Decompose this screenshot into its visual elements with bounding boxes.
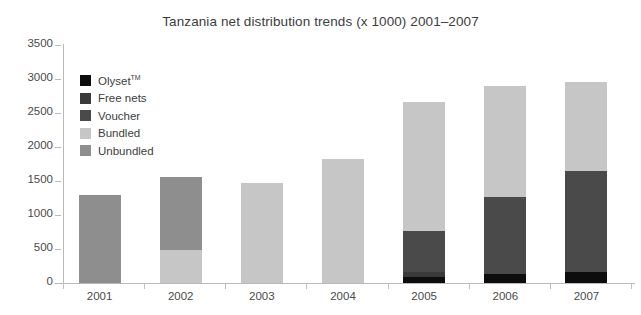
bar-segment <box>403 277 445 283</box>
y-axis-tick <box>55 283 61 284</box>
y-axis-tick-label: 500 <box>5 241 53 253</box>
y-axis-tick <box>55 45 61 46</box>
bar-segment <box>484 197 526 274</box>
bar-segment <box>565 272 607 283</box>
x-axis-tick-label: 2002 <box>146 290 216 302</box>
legend-swatch-icon <box>80 128 91 139</box>
bar-segment <box>322 159 364 283</box>
y-axis-tick-label: 3500 <box>5 37 53 49</box>
legend-swatch-icon <box>80 93 91 104</box>
legend-item-voucher[interactable]: Voucher <box>80 107 154 125</box>
bar-segment <box>79 195 121 283</box>
x-axis-tick-label: 2005 <box>389 290 459 302</box>
bar-2001[interactable] <box>79 195 121 283</box>
x-axis-tick-label: 2001 <box>65 290 135 302</box>
y-axis-tick-label: 1000 <box>5 207 53 219</box>
x-axis-tick <box>469 283 470 289</box>
x-axis-tick <box>631 283 632 289</box>
x-axis-tick-label: 2003 <box>227 290 297 302</box>
bar-2005[interactable] <box>403 102 445 283</box>
y-axis-tick <box>55 249 61 250</box>
chart-title: Tanzania net distribution trends (x 1000… <box>0 14 641 29</box>
trademark-mark: TM <box>131 74 141 81</box>
x-axis-tick-label: 2006 <box>470 290 540 302</box>
bar-segment <box>565 171 607 273</box>
x-axis-tick <box>225 283 226 289</box>
chart-legend: OlysetTMFree netsVoucherBundledUnbundled <box>80 72 154 160</box>
y-axis-tick-label: 2500 <box>5 105 53 117</box>
y-axis-tick <box>55 181 61 182</box>
x-axis-tick-label: 2004 <box>308 290 378 302</box>
legend-swatch-icon <box>80 145 91 156</box>
bar-segment <box>241 183 283 283</box>
legend-item-label: Voucher <box>98 110 140 122</box>
bar-segment <box>160 250 202 283</box>
legend-item-bundled[interactable]: Bundled <box>80 125 154 143</box>
y-axis-tick <box>55 215 61 216</box>
x-axis-tick <box>550 283 551 289</box>
x-axis-tick <box>144 283 145 289</box>
y-axis-tick-label: 0 <box>5 275 53 287</box>
x-axis-tick <box>306 283 307 289</box>
bar-segment <box>403 102 445 231</box>
y-axis-tick-label: 2000 <box>5 139 53 151</box>
x-axis-tick-label: 2007 <box>551 290 621 302</box>
legend-item-label: OlysetTM <box>98 74 141 87</box>
legend-swatch-icon <box>80 75 91 86</box>
y-axis-tick <box>55 147 61 148</box>
legend-item-olyset[interactable]: OlysetTM <box>80 72 154 90</box>
legend-item-label: Unbundled <box>98 145 154 157</box>
bar-segment <box>160 177 202 250</box>
bar-2007[interactable] <box>565 82 607 283</box>
y-axis-tick-label: 3000 <box>5 71 53 83</box>
legend-item-label: Free nets <box>98 92 147 104</box>
y-axis-tick <box>55 79 61 80</box>
legend-item-unbundled[interactable]: Unbundled <box>80 142 154 160</box>
bar-2003[interactable] <box>241 183 283 283</box>
bar-segment <box>565 82 607 171</box>
bar-segment <box>403 231 445 272</box>
y-axis-tick-label: 1500 <box>5 173 53 185</box>
bar-segment <box>484 86 526 198</box>
bar-2002[interactable] <box>160 177 202 283</box>
bar-2004[interactable] <box>322 159 364 283</box>
legend-swatch-icon <box>80 110 91 121</box>
x-axis-tick <box>388 283 389 289</box>
legend-item-free-nets[interactable]: Free nets <box>80 90 154 108</box>
legend-item-label: Bundled <box>98 127 140 139</box>
y-axis-tick <box>55 113 61 114</box>
x-axis-tick <box>63 283 64 289</box>
bar-2006[interactable] <box>484 86 526 283</box>
chart-figure: Tanzania net distribution trends (x 1000… <box>0 0 641 315</box>
bar-segment <box>484 274 526 283</box>
